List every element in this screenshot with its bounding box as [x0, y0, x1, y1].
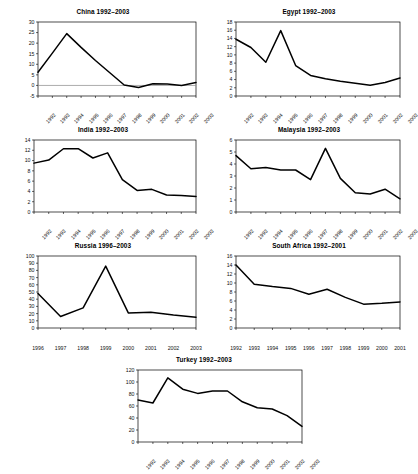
y-axis-tick-label: 10 — [227, 52, 233, 58]
x-axis-label-group-russia: 19961997199819992000200120022003 — [8, 344, 200, 353]
y-axis-tick-label: 14 — [227, 262, 233, 268]
chart-title-egypt: Egypt 1992–2003 — [214, 8, 404, 16]
x-axis-tick-label: 1998 — [331, 112, 343, 124]
x-axis-tick-label: 1997 — [116, 112, 128, 124]
chart-panel-egypt: Egypt 1992–20031816141210864201992199319… — [214, 8, 404, 134]
x-axis-tick-label: 1992 — [242, 228, 254, 240]
y-axis-tick-label: 40 — [29, 296, 35, 302]
y-axis-tick-label: 2 — [230, 85, 233, 91]
x-axis-tick-label: 2001 — [172, 228, 184, 240]
x-axis-tick-label: 1994 — [73, 112, 85, 124]
chart-title-russia: Russia 1996–2003 — [8, 242, 198, 250]
x-axis-tick-label: 1995 — [87, 112, 99, 124]
y-axis-tick-label: 0 — [32, 325, 35, 331]
x-axis-tick-label: 2000 — [123, 345, 135, 351]
x-axis-tick-label: 1998 — [340, 345, 352, 351]
y-axis-tick-label: 8 — [28, 168, 31, 174]
chart-panel-turkey: Turkey 1992–2003120100806040200199219931… — [104, 356, 304, 474]
x-axis-tick-label: 1993 — [159, 458, 171, 470]
x-axis-tick-label: 1996 — [303, 345, 315, 351]
plot-area-russia: 1009080706050403020100 — [8, 250, 200, 344]
x-axis-tick-label: 1999 — [346, 112, 358, 124]
x-axis-tick-label: 1992 — [44, 112, 56, 124]
chart-title-india: India 1992–2003 — [8, 126, 198, 134]
y-axis-tick-label: 6 — [28, 178, 31, 184]
chart-panel-south-africa: South Africa 1992–2001161412108642019921… — [214, 242, 404, 353]
x-axis-tick-label: 1992 — [242, 112, 254, 124]
plot-area-india: 14121086420 — [8, 134, 200, 228]
x-axis-tick-label: 1999 — [100, 345, 112, 351]
x-axis-tick-label: 1997 — [55, 345, 67, 351]
y-axis-tick-label: 18 — [227, 19, 233, 25]
y-axis-tick-label: 5 — [32, 72, 35, 78]
chart-title-malaysia: Malaysia 1992–2003 — [214, 126, 404, 134]
y-axis-tick-label: 16 — [227, 27, 233, 33]
x-axis-tick-label: 2000 — [159, 112, 171, 124]
y-axis-tick-label: 120 — [126, 367, 135, 373]
x-axis-tick-label: 1994 — [174, 458, 186, 470]
y-axis-tick-label: 0 — [230, 209, 233, 215]
plot-frame — [34, 140, 196, 212]
y-axis-tick-label: 10 — [25, 157, 31, 163]
x-axis-tick-label: 1997 — [218, 458, 230, 470]
x-axis-tick-label: 2003 — [202, 112, 214, 124]
y-axis-tick-label: 10 — [227, 280, 233, 286]
x-axis-tick-label: 1993 — [55, 228, 67, 240]
x-axis-tick-label: 2001 — [145, 345, 157, 351]
x-axis-tick-label: 2002 — [293, 458, 305, 470]
x-axis-tick-label: 1998 — [77, 345, 89, 351]
chart-panel-china: China 1992–2003302520151050-519921993199… — [8, 8, 198, 134]
chart-title-china: China 1992–2003 — [8, 8, 198, 16]
x-axis-tick-label: 1996 — [99, 228, 111, 240]
x-axis-tick-label: 2000 — [376, 345, 388, 351]
y-axis-tick-label: 6 — [230, 137, 233, 143]
x-axis-tick-label: 2000 — [263, 458, 275, 470]
x-axis-tick-label: 1996 — [302, 228, 314, 240]
y-axis-tick-label: 90 — [29, 260, 35, 266]
y-axis-tick-label: 50 — [29, 289, 35, 295]
y-axis-tick-label: 20 — [29, 40, 35, 46]
y-axis-tick-label: 0 — [230, 325, 233, 331]
chart-panel-malaysia: Malaysia 1992–20036543210199219931994199… — [214, 126, 404, 250]
x-axis-tick-label: 1995 — [189, 458, 201, 470]
x-axis-label-group-south-africa: 1992199319941995199619971998199920002001 — [214, 344, 404, 353]
x-axis-tick-label: 1999 — [248, 458, 260, 470]
plot-frame — [38, 256, 196, 328]
y-axis-tick-label: 3 — [230, 173, 233, 179]
x-axis-tick-label: 1993 — [257, 112, 269, 124]
chart-title-south-africa: South Africa 1992–2001 — [214, 242, 404, 250]
x-axis-tick-label: 1998 — [331, 228, 343, 240]
plot-area-china: 302520151050-5 — [8, 16, 200, 112]
chart-panel-russia: Russia 1996–2003100908070605040302010019… — [8, 242, 198, 353]
y-axis-tick-label: 12 — [25, 147, 31, 153]
y-axis-tick-label: -5 — [30, 93, 35, 99]
x-axis-tick-label: 2001 — [376, 228, 388, 240]
y-axis-tick-label: 0 — [32, 82, 35, 88]
chart-panel-india: India 1992–20031412108642019921993199419… — [8, 126, 198, 250]
y-axis-tick-label: 4 — [230, 161, 233, 167]
y-axis-tick-label: 40 — [129, 415, 135, 421]
x-axis-tick-label: 2001 — [173, 112, 185, 124]
y-axis-tick-label: 5 — [230, 149, 233, 155]
x-axis-tick-label: 1995 — [285, 345, 297, 351]
y-axis-tick-label: 70 — [29, 275, 35, 281]
y-axis-tick-label: 80 — [29, 267, 35, 273]
x-axis-tick-label: 2002 — [391, 112, 403, 124]
x-axis-tick-label: 2002 — [391, 228, 403, 240]
x-axis-tick-label: 2003 — [406, 112, 418, 124]
x-axis-tick-label: 1994 — [267, 345, 279, 351]
plot-area-south-africa: 1614121086420 — [214, 250, 404, 344]
x-axis-tick-label: 1997 — [114, 228, 126, 240]
y-axis-tick-label: 10 — [29, 61, 35, 67]
x-axis-tick-label: 2003 — [308, 458, 320, 470]
y-axis-tick-label: 0 — [230, 93, 233, 99]
x-axis-tick-label: 1994 — [69, 228, 81, 240]
y-axis-tick-label: 12 — [227, 271, 233, 277]
x-axis-tick-label: 2003 — [190, 345, 202, 351]
y-axis-tick-label: 80 — [129, 391, 135, 397]
y-axis-tick-label: 0 — [28, 209, 31, 215]
y-axis-tick-label: 15 — [29, 51, 35, 57]
data-series-line-india — [34, 149, 196, 197]
y-axis-tick-label: 1 — [230, 197, 233, 203]
